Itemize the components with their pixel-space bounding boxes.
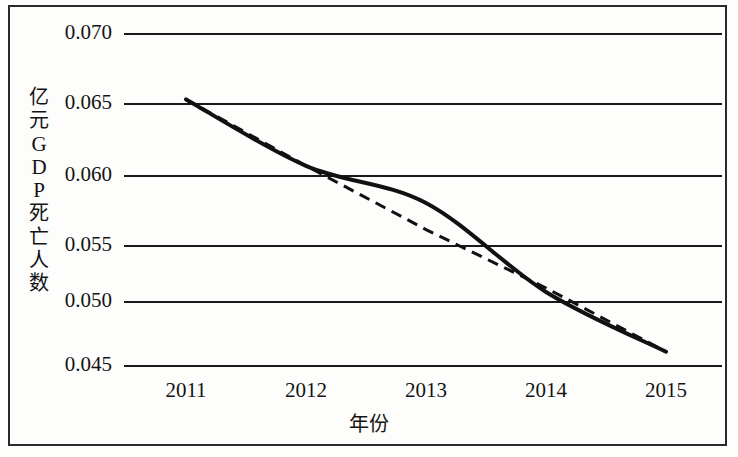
y-tick-label-4: 0.050	[0, 290, 112, 311]
chart-figure: 亿 元 G D P 死 亡 人 数 0.070 0.065 0.060 0.05…	[0, 0, 738, 457]
x-tick-label-2012: 2012	[261, 378, 351, 403]
x-tick-label-2014: 2014	[501, 378, 591, 403]
x-tick-label-2013: 2013	[381, 378, 471, 403]
x-tick-label-2015: 2015	[621, 378, 711, 403]
x-axis-title: 年份	[0, 408, 738, 437]
x-tick-label-2011: 2011	[141, 378, 231, 403]
y-tick-label-0: 0.070	[0, 22, 112, 43]
y-tick-label-2: 0.060	[0, 164, 112, 185]
gridline-0.070	[124, 33, 722, 35]
plot-area	[124, 33, 722, 365]
y-tick-label-1: 0.065	[0, 92, 112, 113]
gridline-0.055	[124, 245, 722, 247]
y-tick-label-5: 0.045	[0, 354, 112, 375]
y-axis-tick-labels: 0.070 0.065 0.060 0.055 0.050 0.045	[0, 0, 124, 457]
gridline-0.050	[124, 301, 722, 303]
gridline-0.045	[124, 365, 722, 367]
y-tick-label-3: 0.055	[0, 234, 112, 255]
gridline-0.060	[124, 175, 722, 177]
gridline-0.065	[124, 103, 722, 105]
